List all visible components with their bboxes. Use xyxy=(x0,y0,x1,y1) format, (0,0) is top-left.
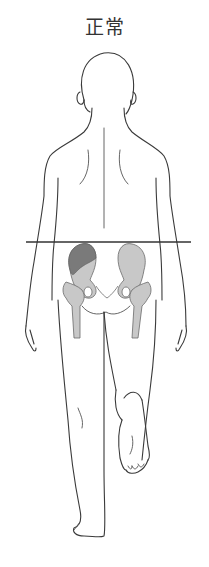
pelvis xyxy=(63,244,151,338)
legs xyxy=(58,300,156,537)
head xyxy=(77,53,136,114)
body-illustration xyxy=(0,0,209,567)
torso xyxy=(26,108,186,326)
